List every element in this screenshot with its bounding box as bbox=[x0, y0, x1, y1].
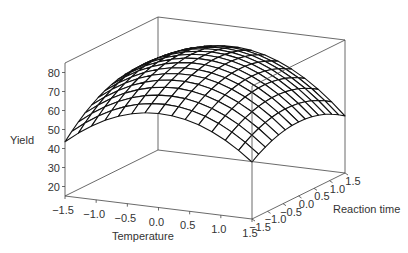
surface-plot: 20304050607080−1.5−1.0−0.50.00.51.01.5−1… bbox=[0, 0, 408, 253]
y-tick-label: 0.5 bbox=[314, 190, 329, 202]
z-tick-label: 50 bbox=[48, 124, 60, 136]
surface-mesh bbox=[65, 46, 345, 162]
z-tick-label: 40 bbox=[48, 143, 60, 155]
x-axis-label: Temperature bbox=[112, 230, 174, 242]
x-tick-label: −0.5 bbox=[114, 212, 136, 224]
y-axis-label: Reaction time bbox=[333, 203, 400, 215]
z-tick-label: 20 bbox=[48, 181, 60, 193]
x-tick-label: −1.0 bbox=[83, 208, 105, 220]
z-tick-label: 60 bbox=[48, 105, 60, 117]
x-tick-label: 1.0 bbox=[211, 223, 226, 235]
x-tick-label: 0.0 bbox=[149, 216, 164, 228]
z-tick-label: 80 bbox=[48, 67, 60, 79]
y-tick-label: 0.0 bbox=[299, 198, 314, 210]
y-tick-label: 1.0 bbox=[330, 183, 345, 195]
z-tick-label: 70 bbox=[48, 86, 60, 98]
y-tick-label: 1.5 bbox=[345, 175, 360, 187]
z-axis-label: Yield bbox=[10, 134, 34, 146]
x-tick-label: −1.5 bbox=[52, 204, 74, 216]
x-tick-label: 0.5 bbox=[180, 219, 195, 231]
z-tick-label: 30 bbox=[48, 162, 60, 174]
